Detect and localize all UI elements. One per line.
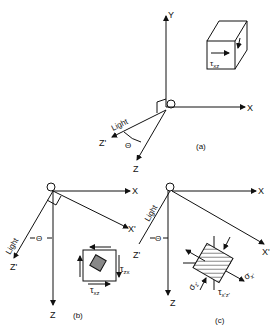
z-prime-axis-label: Z': [133, 250, 140, 260]
z-axis-label: Z: [133, 164, 139, 174]
z-prime-axis: [14, 191, 53, 258]
panel-a: [112, 16, 247, 160]
x-axis-label: X: [258, 186, 264, 196]
stress-element: [183, 236, 244, 290]
sigma-x-prime-label: σx': [242, 268, 256, 282]
x-prime-axis-label: X': [262, 247, 270, 257]
tau-x-prime-z-prime-label: τx'z': [218, 287, 230, 298]
light-label: Light: [110, 117, 130, 133]
panel-b-caption: (b): [73, 311, 83, 320]
z-prime-axis-label: Z': [99, 138, 106, 148]
panel-a-labels: Y X Z' Z Light Θ (a) τxz: [99, 10, 253, 174]
theta-label: Θ: [36, 234, 42, 243]
x-axis-label: X: [132, 186, 138, 196]
inner-element: [90, 255, 106, 271]
z-prime-axis-label: Z': [10, 262, 17, 272]
tau-zx-label: τzx: [120, 264, 130, 275]
light-label: Light: [4, 236, 21, 256]
origin-marker: [166, 183, 174, 191]
panel-b: [14, 183, 130, 305]
x-prime-axis-label: X': [128, 224, 136, 234]
z-axis-label: Z: [50, 310, 56, 320]
x-axis-label: X: [247, 103, 253, 113]
origin-marker: [47, 183, 55, 191]
theta-label: Θ: [155, 234, 161, 243]
theta-label: Θ: [125, 141, 131, 150]
photoelastic-diagram: Y X Z' Z Light Θ (a) τxz X X' Z Z' Light…: [0, 0, 276, 333]
diagram-canvas: Y X Z' Z Light Θ (a) τxz X X' Z Z' Light…: [0, 0, 276, 333]
x-prime-axis: [53, 191, 128, 228]
tau-xz-label: τxz: [90, 285, 100, 296]
y-axis-label: Y: [168, 10, 174, 20]
sigma-z-prime-label: σz': [186, 279, 200, 293]
z-axis-label: Z: [170, 298, 176, 308]
tau-xz-label: τxz: [210, 59, 219, 69]
panel-b-labels: X X' Z Z' Light Θ (b) τzx τxz: [4, 186, 138, 320]
x-prime-axis: [172, 191, 264, 244]
panel-c-caption: (c): [215, 316, 225, 325]
panel-a-caption: (a): [196, 142, 206, 151]
